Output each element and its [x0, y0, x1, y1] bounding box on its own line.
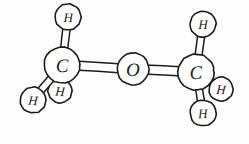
- atom-label-c1: C: [55, 55, 69, 76]
- atom-h-h2: H: [20, 87, 46, 113]
- atom-label-h4: H: [197, 17, 208, 32]
- atom-layer-front: HCHOCHH: [20, 4, 216, 126]
- bond-c1-o1: [74, 61, 122, 73]
- atom-o-o1: O: [117, 53, 149, 85]
- atom-h-h1: H: [55, 4, 81, 30]
- atom-c-c1: C: [44, 47, 80, 83]
- atom-c-c2: C: [178, 54, 215, 90]
- atom-label-h6: H: [197, 106, 209, 121]
- atom-label-o1: O: [126, 59, 140, 80]
- atom-label-h5: H: [215, 82, 227, 98]
- atom-label-h1: H: [62, 10, 73, 25]
- figure-canvas: HH HCHOCHH: [0, 0, 249, 144]
- atom-label-h3: H: [54, 84, 66, 100]
- atom-label-h2: H: [27, 93, 39, 109]
- atom-h-h4: H: [190, 11, 216, 37]
- atom-label-c2: C: [189, 62, 203, 84]
- molecule-diagram: HH HCHOCHH: [0, 0, 249, 144]
- atom-h-h6: H: [190, 100, 216, 125]
